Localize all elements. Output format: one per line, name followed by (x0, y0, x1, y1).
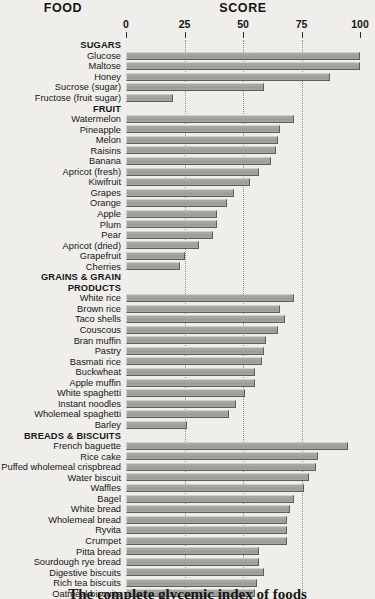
bar-cell (126, 420, 375, 431)
bar-cell (126, 188, 375, 199)
bar-cell (126, 388, 375, 399)
section-heading-label: GRAINS & GRAIN (0, 272, 126, 282)
chart-row: Honey (0, 72, 375, 83)
bar-cell (126, 356, 375, 367)
food-label: Apple (0, 209, 126, 219)
score-bar (126, 94, 173, 102)
score-bar (126, 547, 259, 555)
bar-cell (126, 494, 375, 505)
food-label: Basmati rice (0, 357, 126, 367)
bar-cell (126, 304, 375, 315)
score-bar (126, 537, 287, 545)
bar-cell (126, 135, 375, 146)
chart-row: Wholemeal spaghetti (0, 409, 375, 420)
chart-row: Instant noodles (0, 399, 375, 410)
score-bar (126, 305, 280, 313)
chart-row: Apple muffin (0, 378, 375, 389)
chart-row: Bagel (0, 494, 375, 505)
chart-row: Rice cake (0, 451, 375, 462)
bar-cell (126, 114, 375, 125)
chart-row: Apricot (dried) (0, 240, 375, 251)
bar-cell (126, 124, 375, 135)
food-label: Grapefruit (0, 251, 126, 261)
food-label: Melon (0, 135, 126, 145)
score-bar (126, 315, 285, 323)
score-bar (126, 125, 280, 133)
food-column-heading: FOOD (0, 1, 126, 15)
score-bar (126, 568, 264, 576)
bar-cell (126, 430, 375, 441)
bar-cell (126, 536, 375, 547)
food-label: Buckwheat (0, 367, 126, 377)
chart-row: Digestive biscuits (0, 567, 375, 578)
chart-row: Pastry (0, 346, 375, 357)
score-bar (126, 389, 245, 397)
chart-row: Maltose (0, 61, 375, 72)
axis-tick-mark (302, 32, 303, 38)
food-label: French baguette (0, 441, 126, 451)
score-bar (126, 220, 217, 228)
bar-cell (126, 230, 375, 241)
score-bar (126, 463, 316, 471)
bar-cell (126, 399, 375, 410)
score-bar (126, 505, 290, 513)
bar-cell (126, 156, 375, 167)
food-label: Wholemeal spaghetti (0, 409, 126, 419)
bar-cell (126, 525, 375, 536)
chart-row: Melon (0, 135, 375, 146)
score-bar (126, 516, 287, 524)
bar-cell (126, 409, 375, 420)
chart-row: Pear (0, 230, 375, 241)
food-label: Pear (0, 230, 126, 240)
food-label: Taco shells (0, 314, 126, 324)
score-bar (126, 347, 264, 355)
food-label: Sourdough rye bread (0, 557, 126, 567)
food-label: Wholemeal bread (0, 515, 126, 525)
section-heading-label: PRODUCTS (0, 283, 126, 293)
bar-cell (126, 209, 375, 220)
food-label: Grapes (0, 188, 126, 198)
bar-cell (126, 72, 375, 83)
score-bar (126, 73, 330, 81)
bar-cell (126, 272, 375, 283)
food-label: Digestive biscuits (0, 568, 126, 578)
bar-cell (126, 346, 375, 357)
food-label: Pitta bread (0, 547, 126, 557)
score-bar (126, 146, 276, 154)
chart-row: Basmati rice (0, 356, 375, 367)
bar-cell (126, 40, 375, 51)
axis-tick-mark (185, 32, 186, 38)
score-bar (126, 62, 360, 70)
score-bar (126, 495, 294, 503)
axis-tick-mark (126, 32, 127, 38)
chart-row: Ryvita (0, 525, 375, 536)
score-bar (126, 157, 271, 165)
score-bar (126, 241, 199, 249)
chart-row: Crumpet (0, 536, 375, 547)
score-bar (126, 294, 294, 302)
bar-cell (126, 546, 375, 557)
bar-cell (126, 462, 375, 473)
chart-row: Kiwifruit (0, 177, 375, 188)
chart-row: Brown rice (0, 304, 375, 315)
bar-cell (126, 93, 375, 104)
bar-cell (126, 240, 375, 251)
score-bar (126, 210, 217, 218)
food-label: Couscous (0, 325, 126, 335)
score-bar (126, 442, 348, 450)
score-bar (126, 231, 213, 239)
score-bar (126, 484, 304, 492)
section-heading: PRODUCTS (0, 283, 375, 294)
bar-cell (126, 167, 375, 178)
bar-cell (126, 251, 375, 262)
chart-row: Pineapple (0, 124, 375, 135)
food-label: Crumpet (0, 536, 126, 546)
food-label: Apricot (fresh) (0, 167, 126, 177)
bar-cell (126, 325, 375, 336)
score-bar (126, 368, 255, 376)
chart-row: Pitta bread (0, 546, 375, 557)
chart-row: Orange (0, 198, 375, 209)
food-label: Sucrose (sugar) (0, 82, 126, 92)
chart-row: Sourdough rye bread (0, 557, 375, 568)
bar-cell (126, 145, 375, 156)
